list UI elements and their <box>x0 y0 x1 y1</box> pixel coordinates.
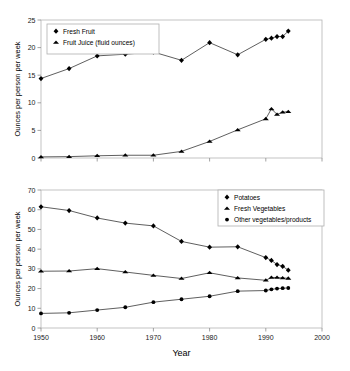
data-point-triangle <box>285 110 291 113</box>
legend-label: Potatoes <box>234 194 261 201</box>
data-point-circle <box>208 294 212 298</box>
data-point-diamond <box>235 52 240 57</box>
data-point-triangle <box>274 112 280 115</box>
y-tick-label: 40 <box>28 246 36 253</box>
data-point-diamond <box>67 208 72 213</box>
data-point-circle <box>281 286 285 290</box>
data-point-triangle <box>94 267 100 270</box>
data-point-diamond <box>263 37 268 42</box>
data-point-circle <box>151 300 155 304</box>
data-point-diamond <box>179 239 184 244</box>
y-tick-label: 20 <box>28 44 36 51</box>
data-point-diamond <box>286 268 291 273</box>
legend-label: Fresh Vegetables <box>234 205 286 213</box>
y-axis-title: Ounces per person per week <box>13 41 22 136</box>
data-point-diamond <box>207 40 212 45</box>
chart-panel-bottom: 010203040506070195019601970198019902000O… <box>13 187 330 358</box>
data-point-circle <box>180 297 184 301</box>
data-point-triangle <box>235 128 241 131</box>
data-point-diamond <box>263 255 268 260</box>
data-point-triangle <box>178 149 184 152</box>
y-tick-label: 70 <box>28 187 36 194</box>
data-point-circle <box>286 286 290 290</box>
chart-panel-top: 0510152025Ounces per person per weekFres… <box>13 17 322 162</box>
y-tick-label: 20 <box>28 285 36 292</box>
x-tick-label: 1970 <box>146 334 162 341</box>
y-tick-label: 10 <box>28 99 36 106</box>
series-2 <box>38 107 291 158</box>
data-point-circle <box>225 218 229 222</box>
x-tick-label: 2000 <box>314 334 330 341</box>
data-point-triangle <box>207 271 213 274</box>
x-axis-title: Year <box>172 348 190 358</box>
figure-container: 0510152025Ounces per person per weekFres… <box>0 0 350 371</box>
data-point-circle <box>95 308 99 312</box>
data-point-diamond <box>269 258 274 263</box>
data-point-diamond <box>151 223 156 228</box>
data-point-diamond <box>123 220 128 225</box>
series-3 <box>39 286 290 315</box>
series-line <box>41 288 288 313</box>
data-point-circle <box>236 289 240 293</box>
series-2 <box>38 267 291 282</box>
data-point-circle <box>264 289 268 293</box>
legend-top: Fresh FruitFruit Juice (fluid ounces) <box>47 24 159 54</box>
legend-label: Other vegetables/products <box>234 216 312 224</box>
x-tick-label: 1990 <box>258 334 274 341</box>
series-line <box>41 269 288 281</box>
data-point-diamond <box>207 245 212 250</box>
data-point-diamond <box>275 262 280 267</box>
chart-svg: 0510152025Ounces per person per weekFres… <box>0 0 350 371</box>
data-point-triangle <box>263 117 269 120</box>
y-axis-title: Ounces per person per week <box>13 211 22 306</box>
data-point-diamond <box>269 36 274 41</box>
data-point-diamond <box>67 66 72 71</box>
data-point-diamond <box>39 76 44 81</box>
legend-label: Fruit Juice (fluid ounces) <box>63 39 135 47</box>
legend-label: Fresh Fruit <box>63 28 95 35</box>
data-point-circle <box>39 311 43 315</box>
data-point-circle <box>269 287 273 291</box>
data-point-triangle <box>207 139 213 142</box>
y-tick-label: 10 <box>28 305 36 312</box>
y-tick-label: 60 <box>28 206 36 213</box>
y-tick-label: 0 <box>32 155 36 162</box>
y-tick-label: 30 <box>28 265 36 272</box>
data-point-diamond <box>179 58 184 63</box>
data-point-circle <box>275 287 279 291</box>
x-tick-label: 1960 <box>89 334 105 341</box>
data-point-diamond <box>280 264 285 269</box>
data-point-diamond <box>275 34 280 39</box>
y-tick-label: 0 <box>32 325 36 332</box>
data-point-diamond <box>235 244 240 249</box>
data-point-circle <box>123 305 127 309</box>
x-tick-label: 1950 <box>33 334 49 341</box>
y-tick-label: 5 <box>32 127 36 134</box>
series-line <box>41 109 288 157</box>
data-point-diamond <box>95 215 100 220</box>
data-point-diamond <box>39 204 44 209</box>
y-tick-label: 50 <box>28 226 36 233</box>
legend-bottom: PotatoesFresh VegetablesOther vegetables… <box>218 190 324 226</box>
x-tick-label: 1980 <box>202 334 218 341</box>
y-tick-label: 25 <box>28 17 36 24</box>
data-point-circle <box>67 311 71 315</box>
data-point-triangle <box>268 107 274 110</box>
y-tick-label: 15 <box>28 72 36 79</box>
